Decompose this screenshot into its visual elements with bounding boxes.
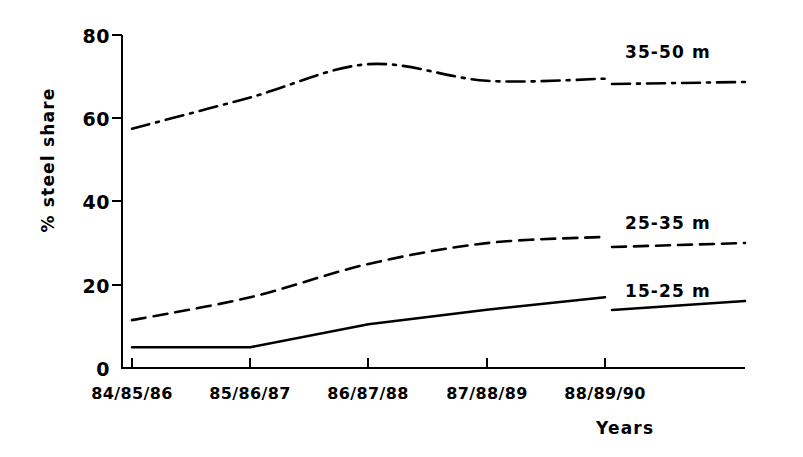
series-group: [132, 64, 605, 347]
series-line-15-25m: [132, 297, 605, 347]
y-tick-marks: [112, 35, 122, 285]
legend-key-strokes: [612, 82, 745, 310]
chart-container: % steel share Years 80 60 40 20 0 84/85/…: [0, 0, 803, 457]
axis-lines: [122, 35, 745, 368]
x-tick-marks: [132, 358, 605, 368]
series-line-35-50m: [132, 64, 605, 129]
plot-area: [0, 0, 803, 457]
series-line-25-35m: [132, 237, 605, 320]
